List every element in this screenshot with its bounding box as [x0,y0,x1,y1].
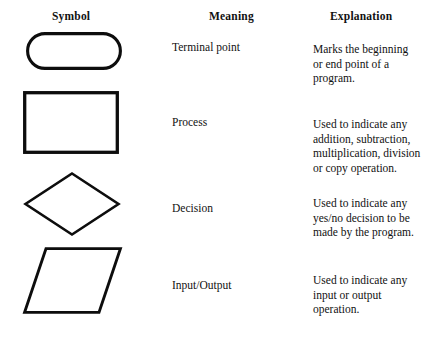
explanation-line: Used to indicate any [313,117,442,132]
input-output-parallelogram-icon [23,247,122,314]
explanation-line: yes/no decision to be [313,211,442,226]
explanation-decision: Used to indicate any yes/no decision to … [313,196,442,240]
explanation-terminal-point: Marks the beginning or end point of a pr… [313,42,442,86]
explanation-line: Marks the beginning [313,42,442,57]
explanation-line: made by the program. [313,225,442,240]
explanation-line: addition, subtraction, [313,132,442,147]
terminal-point-symbol [26,32,122,70]
process-rectangle-icon [23,91,119,154]
explanation-input-output: Used to indicate any input or output ope… [313,273,442,317]
explanation-line: or end point of a [313,57,442,72]
process-symbol [23,91,119,154]
explanation-process: Used to indicate any addition, subtracti… [313,117,442,175]
column-header-symbol: Symbol [52,10,90,22]
explanation-line: operation. [313,302,442,317]
meaning-terminal-point: Terminal point [172,41,240,53]
meaning-decision: Decision [172,202,213,214]
column-header-explanation: Explanation [330,10,392,22]
decision-diamond-icon [24,172,120,236]
explanation-line: or copy operation. [313,161,442,176]
explanation-line: Used to indicate any [313,196,442,211]
explanation-line: program. [313,71,442,86]
terminal-rounded-rectangle-icon [26,32,122,70]
explanation-line: multiplication, division [313,146,442,161]
explanation-line: Used to indicate any [313,273,442,288]
meaning-process: Process [172,116,207,128]
decision-symbol [24,172,120,236]
explanation-line: input or output [313,288,442,303]
meaning-input-output: Input/Output [172,279,231,291]
input-output-symbol [23,247,122,314]
column-header-meaning: Meaning [209,10,254,22]
flowchart-symbol-reference-table: Symbol Meaning Explanation Terminal poin… [0,0,442,343]
